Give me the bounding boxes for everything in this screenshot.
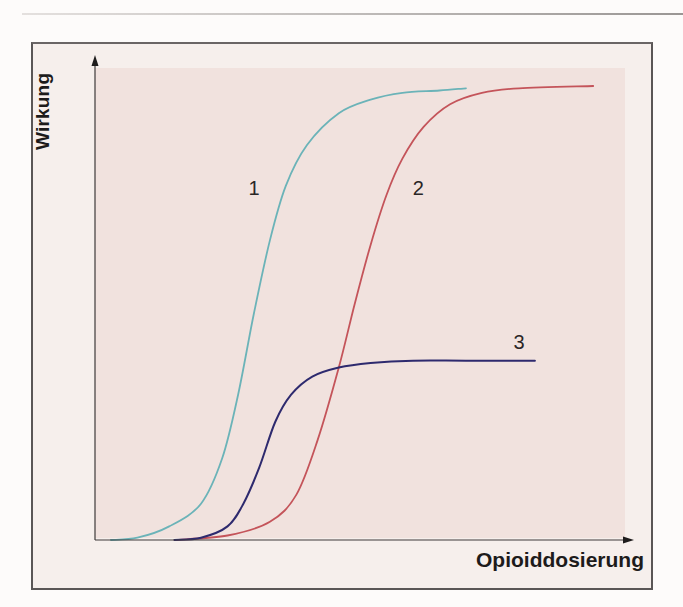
plot-area [95, 68, 625, 538]
curve-label-3: 3 [513, 331, 524, 353]
y-axis-label: Wirkung [32, 73, 54, 150]
curve-label-1: 1 [248, 177, 259, 199]
curve-label-2: 2 [413, 177, 424, 199]
x-axis-label: Opioiddosierung [476, 548, 644, 572]
x-axis-arrow [623, 537, 634, 544]
chart-canvas: 123 [0, 0, 683, 607]
y-axis-arrow [92, 55, 99, 66]
